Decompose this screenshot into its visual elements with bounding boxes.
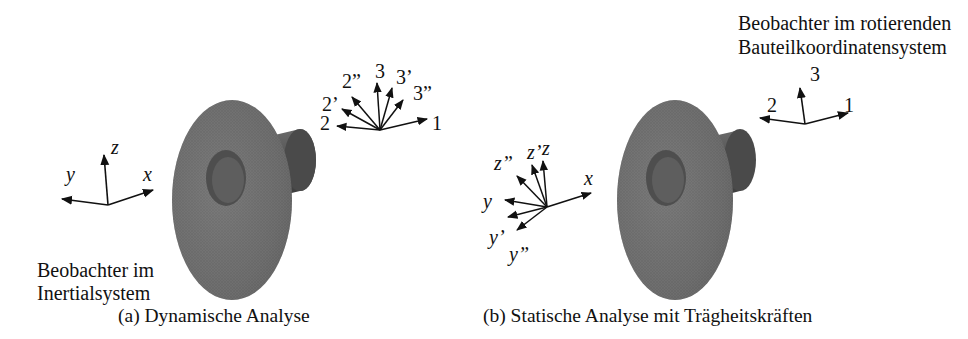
- observer-label-line2: Bauteilkoordinatensystem: [738, 36, 947, 58]
- flange-part-a: [172, 100, 316, 300]
- axis-label-yp: y’: [489, 226, 505, 248]
- flange-part-b: [617, 100, 756, 300]
- axis-label-z: z: [111, 136, 119, 158]
- observer-label-line1: Beobachter im rotierenden: [738, 12, 951, 34]
- observer-label-line2: Inertialsystem: [37, 282, 150, 304]
- caption-a: (a) Dynamische Analyse: [118, 305, 310, 327]
- x-axis-arrow: [108, 190, 153, 205]
- axis-label-3p: 3’: [396, 66, 413, 88]
- axis-label-zpp: z”: [494, 152, 513, 174]
- y-axis-arrow: [62, 199, 108, 205]
- inertial-axes-a: [62, 155, 153, 205]
- axis-label-y: y: [483, 190, 492, 212]
- axis-label-3pp: 3”: [413, 82, 432, 104]
- axis-label-1: 1: [432, 112, 442, 134]
- observer-label-line1: Beobachter im: [37, 259, 154, 281]
- caption-b: (b) Statische Analyse mit Trägheitskräft…: [483, 305, 812, 327]
- axis-label-x: x: [143, 163, 152, 185]
- figure: z y x Beobachter im Inertialsystem 2 2’ …: [0, 0, 968, 339]
- axis-label-2p: 2’: [322, 93, 339, 115]
- body-axis-label-1: 1: [844, 94, 854, 116]
- axis-label-3: 3: [375, 60, 385, 82]
- inertial-axes-b: [505, 161, 591, 230]
- axis-label-2: 2: [320, 112, 330, 134]
- axis-label-z: z: [542, 137, 550, 159]
- body-axis-label-3: 3: [810, 63, 820, 85]
- axis-label-y: y: [66, 163, 75, 185]
- body-axis-label-2: 2: [767, 94, 777, 116]
- axis-label-zp: z’: [527, 141, 541, 163]
- z-axis-arrow: [104, 155, 108, 205]
- axis-label-ypp: y”: [509, 243, 529, 265]
- axis-label-x: x: [584, 167, 593, 189]
- axis-label-2pp: 2”: [342, 70, 361, 92]
